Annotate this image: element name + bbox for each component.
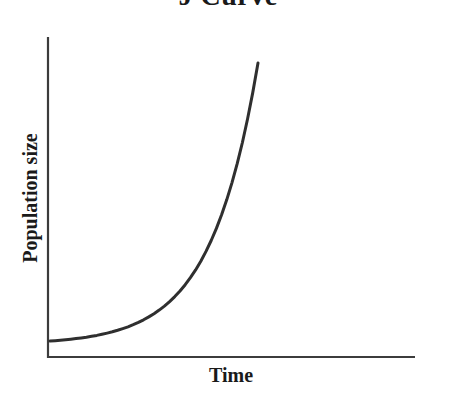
growth-curve xyxy=(50,63,258,341)
j-curve-figure: J Curve Population size Time xyxy=(0,0,456,401)
x-axis-label: Time xyxy=(47,363,415,387)
plot-area xyxy=(0,0,456,401)
